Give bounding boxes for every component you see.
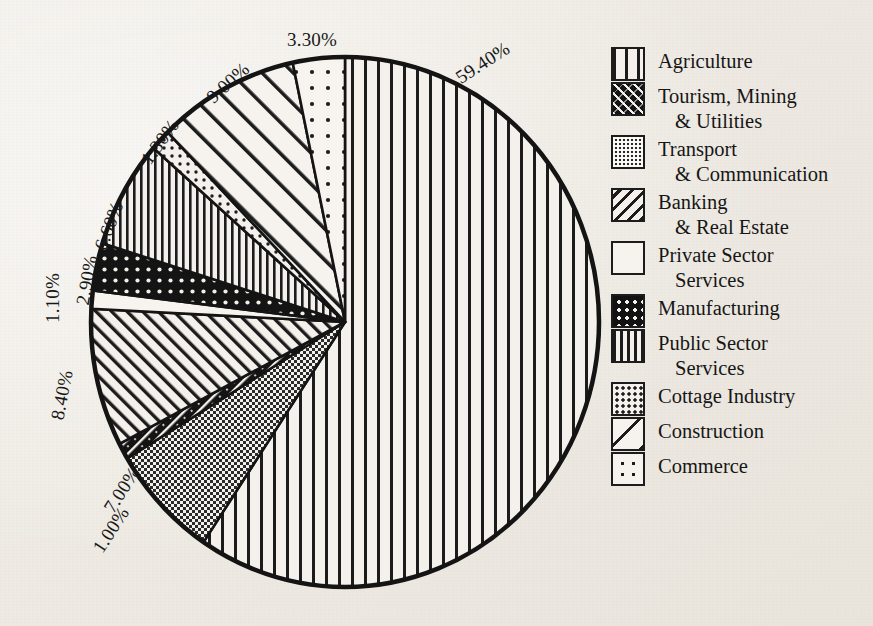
legend-swatch-dark-dots-icon (611, 294, 645, 328)
legend-item[interactable]: Public SectorServices (611, 329, 873, 381)
legend-item[interactable]: Transport& Communication (611, 135, 873, 187)
legend-item-label: Manufacturing (658, 294, 780, 321)
legend-swatch-vertical-lines-wide-icon (611, 47, 645, 81)
legend-item[interactable]: Agriculture (611, 47, 873, 81)
legend-item[interactable]: Manufacturing (611, 294, 873, 328)
legend-item-label: Cottage Industry (658, 382, 795, 409)
legend-label-line2: & Communication (658, 162, 828, 187)
legend-label-line1: Banking (658, 191, 727, 213)
chart-page: 59.40%7.00%1.00%8.40%1.10%2.90%6.60%1.30… (0, 0, 873, 626)
legend-swatch-vertical-lines-narrow-icon (611, 329, 645, 363)
legend-label-line2: & Real Estate (658, 215, 789, 240)
pie-chart-svg (0, 0, 620, 626)
legend-swatch-diagonal-hatch-icon (611, 188, 645, 222)
legend-label-line1: Commerce (658, 455, 748, 477)
legend-swatch-dark-diagonal-icon (611, 82, 645, 116)
pie-slice-percentage: 1.10% (42, 273, 64, 323)
legend-item[interactable]: Construction (611, 417, 873, 451)
legend-label-line2: Services (658, 268, 774, 293)
legend-item[interactable]: Tourism, Mining& Utilities (611, 82, 873, 134)
legend-item[interactable]: Cottage Industry (611, 382, 873, 416)
legend-item-label: Tourism, Mining& Utilities (658, 82, 797, 134)
legend-item-label: Private SectorServices (658, 241, 774, 293)
legend-label-line1: Agriculture (658, 50, 753, 72)
legend-item-label: Agriculture (658, 47, 753, 74)
legend-label-line1: Private Sector (658, 244, 774, 266)
legend-label-line1: Manufacturing (658, 297, 780, 319)
legend-item-label: Commerce (658, 452, 748, 479)
legend-label-line1: Cottage Industry (658, 385, 795, 407)
legend-item-label: Transport& Communication (658, 135, 828, 187)
legend-item-label: Construction (658, 417, 764, 444)
legend-item-label: Banking& Real Estate (658, 188, 789, 240)
legend-label-line1: Public Sector (658, 332, 768, 354)
legend-item[interactable]: Private SectorServices (611, 241, 873, 293)
legend-label-line1: Construction (658, 420, 764, 442)
legend-swatch-fine-dots-icon (611, 382, 645, 416)
legend-swatch-single-diagonal-icon (611, 417, 645, 451)
chart-legend: AgricultureTourism, Mining& UtilitiesTra… (611, 47, 873, 487)
pie-chart: 59.40%7.00%1.00%8.40%1.10%2.90%6.60%1.30… (0, 0, 620, 626)
legend-label-line1: Transport (658, 138, 737, 160)
legend-swatch-sparse-dots-icon (611, 452, 645, 486)
legend-swatch-checkerboard-icon (611, 135, 645, 169)
legend-item[interactable]: Banking& Real Estate (611, 188, 873, 240)
legend-item-label: Public SectorServices (658, 329, 768, 381)
legend-item[interactable]: Commerce (611, 452, 873, 486)
legend-label-line2: & Utilities (658, 109, 797, 134)
legend-label-line2: Services (658, 356, 768, 381)
legend-label-line1: Tourism, Mining (658, 85, 797, 107)
pie-slice-percentage: 3.30% (287, 29, 337, 51)
legend-swatch-empty-icon (611, 241, 645, 275)
